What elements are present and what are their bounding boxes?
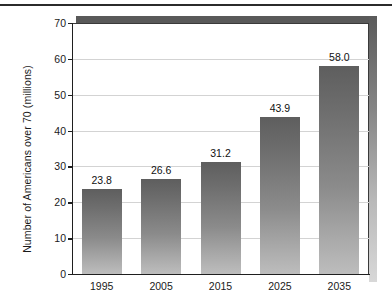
y-axis-tick-mark [68, 274, 72, 275]
plot-shadow-top [76, 16, 376, 23]
bar-value-label: 31.2 [191, 147, 251, 159]
bar-value-label: 43.9 [250, 102, 310, 114]
y-axis-tick-label: 20 [26, 196, 66, 208]
y-axis-tick-label: 60 [26, 53, 66, 65]
x-axis-tick-label: 1995 [72, 280, 132, 292]
x-axis-tick-label: 2035 [309, 280, 369, 292]
x-axis-tick-label: 2015 [191, 280, 251, 292]
y-axis-tick-label: 0 [26, 268, 66, 280]
bar-value-label: 23.8 [72, 174, 132, 186]
bar [82, 189, 122, 274]
bar-chart-figure: Number of Americans over 70 (millions) 0… [0, 0, 392, 308]
y-axis-tick-label: 70 [26, 17, 66, 29]
x-axis-tick-label: 2005 [131, 280, 191, 292]
y-axis-tick-label: 30 [26, 160, 66, 172]
bar [260, 117, 300, 274]
bar [141, 179, 181, 274]
y-axis-tick-label: 40 [26, 125, 66, 137]
x-axis-tick-label: 2025 [250, 280, 310, 292]
bar-value-label: 58.0 [309, 51, 369, 63]
bar [201, 162, 241, 274]
x-axis-line [72, 274, 370, 275]
top-divider-rule [0, 4, 392, 6]
plot-shadow-right [369, 16, 377, 282]
y-axis-tick-label: 10 [26, 232, 66, 244]
y-axis-tick-label: 50 [26, 89, 66, 101]
bar-value-label: 26.6 [131, 164, 191, 176]
bar [319, 66, 359, 274]
